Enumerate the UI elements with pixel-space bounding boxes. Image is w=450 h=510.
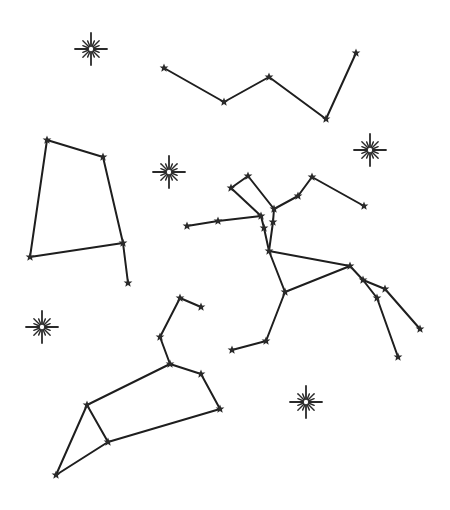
constellation-line xyxy=(218,216,261,221)
star-icon xyxy=(197,369,206,377)
constellation-line xyxy=(377,298,398,357)
constellation-line xyxy=(87,405,108,442)
star-icon xyxy=(228,345,237,353)
star-icon xyxy=(214,216,223,224)
star-icon xyxy=(52,470,61,478)
constellation-line xyxy=(385,289,420,329)
constellation-top-zigzag xyxy=(164,53,356,119)
star-icon xyxy=(197,302,206,310)
constellation-line xyxy=(269,77,326,119)
sparkle-star-icon xyxy=(354,134,386,166)
constellation-lines xyxy=(30,53,420,475)
constellation-line xyxy=(103,157,123,243)
constellation-line xyxy=(164,68,224,102)
sparkle-star-icon xyxy=(290,386,322,418)
constellation-line xyxy=(248,176,274,209)
constellation-left-quadrilateral xyxy=(30,140,128,283)
star-icon xyxy=(183,221,192,229)
star-icon xyxy=(352,48,361,56)
constellation-line xyxy=(108,409,220,442)
constellation-line xyxy=(269,251,285,292)
constellation-line xyxy=(326,53,356,119)
constellation-line xyxy=(187,221,218,226)
sparkle-star-icon xyxy=(153,156,185,188)
constellation-line xyxy=(30,140,47,257)
constellation-line xyxy=(201,374,220,409)
constellation-line xyxy=(269,222,273,251)
constellation-line xyxy=(160,337,170,364)
constellation-line xyxy=(30,243,123,257)
constellation-line xyxy=(87,364,170,405)
constellation-line xyxy=(285,266,350,292)
star-icon xyxy=(262,336,271,344)
constellation-line xyxy=(170,364,201,374)
constellation-stars xyxy=(26,48,425,478)
constellation-line xyxy=(224,77,269,102)
constellation-line xyxy=(231,188,261,216)
constellation-line xyxy=(160,298,180,337)
star-icon xyxy=(26,252,35,260)
constellation-line xyxy=(269,251,350,266)
constellation-canvas xyxy=(0,0,450,510)
sparkle-star-icon xyxy=(26,311,58,343)
constellation-line xyxy=(312,177,364,206)
constellation-leo xyxy=(56,298,220,475)
star-icon xyxy=(124,278,133,286)
constellation-line xyxy=(274,196,298,209)
constellation-line xyxy=(266,292,285,341)
constellation-line xyxy=(47,140,103,157)
constellation-line xyxy=(231,176,248,188)
star-icon xyxy=(360,201,369,209)
constellation-line xyxy=(123,243,128,283)
star-icon xyxy=(216,404,225,412)
constellation-centaur xyxy=(187,176,420,357)
star-icon xyxy=(220,97,229,105)
sparkle-star-icon xyxy=(75,33,107,65)
star-icon xyxy=(176,293,185,301)
constellation-line xyxy=(232,341,266,350)
star-icon xyxy=(394,352,403,360)
